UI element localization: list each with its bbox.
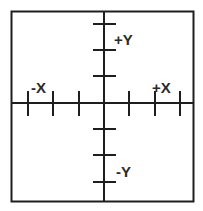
axes-diagram: +Y -Y -X +X	[0, 0, 203, 211]
label-pos-y: +Y	[114, 31, 133, 48]
frame-border	[12, 12, 194, 202]
label-neg-x: -X	[31, 79, 46, 96]
label-neg-y: -Y	[116, 163, 131, 180]
label-pos-x: +X	[152, 79, 171, 96]
